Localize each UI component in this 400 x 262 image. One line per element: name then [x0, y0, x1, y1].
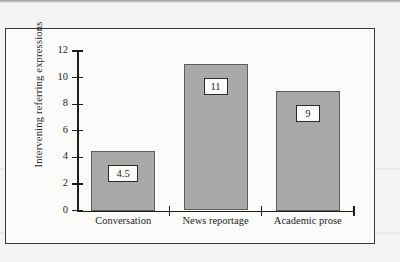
- y-axis-tick-label: 6: [42, 125, 68, 136]
- y-axis-tick: [72, 210, 83, 211]
- y-axis-tick-label: 4: [42, 151, 68, 162]
- bar-chart-plot-area: Intervening referring expressions 024681…: [6, 29, 376, 245]
- y-axis-tick: [72, 183, 83, 184]
- x-axis-category-label: Academic prose: [262, 215, 354, 226]
- bar-value-label: 4.5: [108, 165, 138, 182]
- y-axis-tick: [72, 130, 83, 131]
- x-axis-line: [77, 211, 354, 213]
- x-axis-category-label: Conversation: [77, 215, 169, 226]
- y-axis-tick: [72, 50, 83, 51]
- y-axis-tick-label: 12: [42, 45, 68, 56]
- y-axis-tick: [72, 77, 83, 78]
- figure-frame: Intervening referring expressions 024681…: [5, 28, 375, 244]
- y-axis-tick: [72, 104, 83, 105]
- x-axis-category-label: News reportage: [169, 215, 261, 226]
- y-axis-tick: [72, 157, 83, 158]
- bar-value-label: 9: [296, 105, 320, 122]
- y-axis-tick-label: 0: [42, 205, 68, 216]
- bar-value-label: 11: [204, 78, 228, 95]
- y-axis-tick-label: 2: [42, 178, 68, 189]
- y-axis-tick-label: 8: [42, 98, 68, 109]
- y-axis-tick-label: 10: [42, 72, 68, 83]
